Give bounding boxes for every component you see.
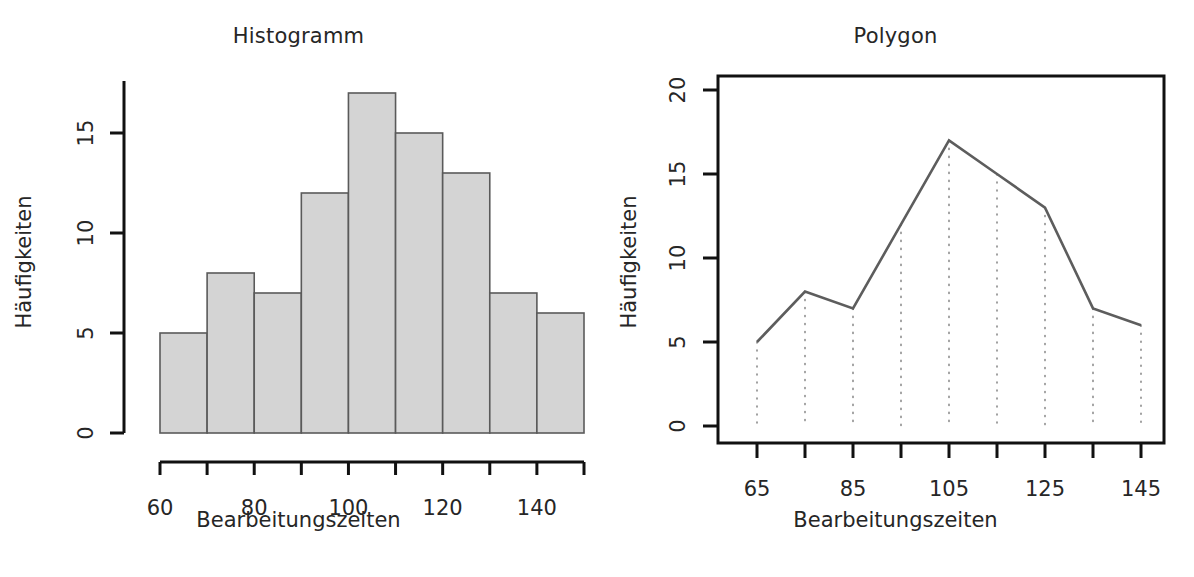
histogram-y-tick-label: 10 bbox=[74, 220, 98, 247]
histogram-bar bbox=[396, 133, 443, 433]
histogram-bar bbox=[490, 293, 537, 433]
histogram-bar bbox=[348, 93, 395, 433]
histogram-bar bbox=[301, 193, 348, 433]
polygon-x-tick-label: 125 bbox=[1025, 477, 1065, 501]
polygon-x-tick-label: 145 bbox=[1121, 477, 1161, 501]
histogram-x-tick-label: 60 bbox=[147, 496, 174, 520]
polygon-panel: Polygon Häufigkeiten Bearbeitungszeiten … bbox=[597, 0, 1194, 577]
polygon-frequency-line bbox=[757, 140, 1141, 342]
histogram-bars bbox=[160, 93, 584, 433]
histogram-x-tick-label: 120 bbox=[423, 496, 463, 520]
histogram-bar bbox=[443, 173, 490, 433]
polygon-y-ticks: 05101520 bbox=[666, 77, 718, 433]
polygon-y-tick-label: 15 bbox=[666, 161, 690, 188]
polygon-y-tick-label: 5 bbox=[666, 335, 690, 348]
polygon-x-ticks: 6585105125145 bbox=[744, 443, 1161, 501]
polygon-y-tick-label: 20 bbox=[666, 77, 690, 104]
histogram-y-tick-label: 0 bbox=[74, 426, 98, 439]
polygon-plot-area: 051015206585105125145 bbox=[597, 0, 1194, 577]
histogram-bar bbox=[537, 313, 584, 433]
histogram-y-tick-label: 15 bbox=[74, 120, 98, 147]
histogram-panel: Histogramm Häufigkeiten Bearbeitungszeit… bbox=[0, 0, 597, 577]
polygon-x-tick-label: 105 bbox=[929, 477, 969, 501]
histogram-x-tick-label: 80 bbox=[241, 496, 268, 520]
figure-canvas: Histogramm Häufigkeiten Bearbeitungszeit… bbox=[0, 0, 1194, 577]
polygon-x-tick-label: 65 bbox=[744, 477, 771, 501]
histogram-bar bbox=[254, 293, 301, 433]
polygon-y-tick-label: 0 bbox=[666, 419, 690, 432]
polygon-drop-lines bbox=[757, 140, 1141, 426]
histogram-y-tick-label: 5 bbox=[74, 326, 98, 339]
histogram-plot-area: 0510156080100120140 bbox=[0, 0, 597, 577]
histogram-x-ticks: 6080100120140 bbox=[147, 462, 584, 520]
polygon-x-tick-label: 85 bbox=[840, 477, 867, 501]
histogram-bar bbox=[160, 333, 207, 433]
polygon-box-frame bbox=[718, 76, 1164, 443]
polygon-y-tick-label: 10 bbox=[666, 245, 690, 272]
histogram-bar bbox=[207, 273, 254, 433]
histogram-y-ticks: 051015 bbox=[74, 120, 124, 440]
histogram-x-tick-label: 140 bbox=[517, 496, 557, 520]
histogram-x-tick-label: 100 bbox=[328, 496, 368, 520]
